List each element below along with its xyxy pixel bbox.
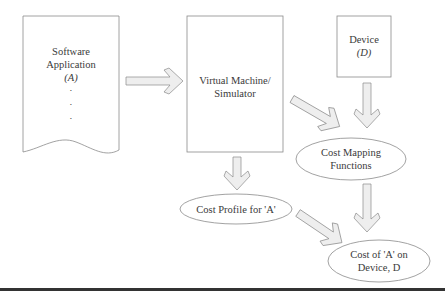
virtual-machine-label: Virtual Machine/ Simulator [187,74,283,100]
software-app-label: Software Application (A) • • • [23,45,119,126]
arrow-app-to-vm [126,68,183,94]
vm-line2: Simulator [187,87,283,100]
cost-on-device-line1: Cost of 'A' on [328,248,430,261]
device-label: Device (D) [337,33,391,59]
software-app-line1: Software [23,45,119,58]
cost-mapping-label: Cost Mapping Functions [296,146,406,172]
software-app-dot-2: • [23,98,119,112]
software-app-line2: Application [23,58,119,71]
vm-line1: Virtual Machine/ [187,74,283,87]
arrow-device-to-mapping [354,83,380,128]
device-line1: Device [337,33,391,46]
cost-profile-line1: Cost Profile for 'A' [180,203,292,216]
software-app-dot-1: • [23,84,119,98]
device-line2: (D) [337,46,391,59]
cost-on-device-line2: Device, D [328,261,430,274]
arrow-mapping-to-cost [354,184,380,232]
bottom-rule [0,288,445,291]
arrow-vm-to-profile [224,157,250,190]
software-app-line3: (A) [23,71,119,84]
cost-mapping-line1: Cost Mapping [296,146,406,159]
cost-mapping-line2: Functions [296,159,406,172]
arrow-profile-to-cost [291,202,349,253]
software-app-dot-3: • [23,112,119,126]
cost-profile-label: Cost Profile for 'A' [180,203,292,216]
arrow-vm-to-mapping [286,88,347,138]
cost-on-device-label: Cost of 'A' on Device, D [328,248,430,274]
